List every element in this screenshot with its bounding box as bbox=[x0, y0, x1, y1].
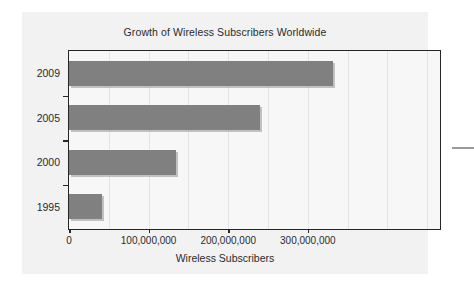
x-axis-tick bbox=[228, 229, 230, 233]
x-axis-title: Wireless Subscribers bbox=[22, 252, 428, 264]
y-axis-tick bbox=[63, 140, 69, 142]
bar-row bbox=[69, 96, 440, 141]
plot-area: 1995200020052009 0100,000,000200,000,000… bbox=[68, 50, 441, 230]
page-edge-rule bbox=[452, 147, 474, 149]
bar-2009 bbox=[69, 61, 333, 86]
bar-2000 bbox=[69, 150, 176, 175]
y-axis-label-1995: 1995 bbox=[37, 201, 60, 213]
y-axis-label-2009: 2009 bbox=[37, 67, 60, 79]
bar-2005 bbox=[69, 105, 260, 130]
x-axis-label-2: 200,000,000 bbox=[200, 235, 256, 246]
bars-layer bbox=[69, 51, 440, 229]
bar-row bbox=[69, 51, 440, 96]
x-axis-label-3: 300,000,000 bbox=[280, 235, 336, 246]
chart-title: Growth of Wireless Subscribers Worldwide bbox=[22, 26, 428, 38]
bar-row bbox=[69, 140, 440, 185]
y-axis-tick bbox=[63, 96, 69, 98]
x-axis-tick bbox=[69, 229, 71, 233]
y-axis-label-2000: 2000 bbox=[37, 156, 60, 168]
x-axis-label-1: 100,000,000 bbox=[121, 235, 177, 246]
y-axis-label-2005: 2005 bbox=[37, 112, 60, 124]
x-axis-tick bbox=[149, 229, 151, 233]
bar-row bbox=[69, 185, 440, 230]
figure-card: Growth of Wireless Subscribers Worldwide… bbox=[22, 12, 428, 274]
bar-1995 bbox=[69, 194, 102, 219]
x-axis-label-0: 0 bbox=[66, 235, 72, 246]
y-axis-tick bbox=[63, 185, 69, 187]
x-axis-tick bbox=[308, 229, 310, 233]
